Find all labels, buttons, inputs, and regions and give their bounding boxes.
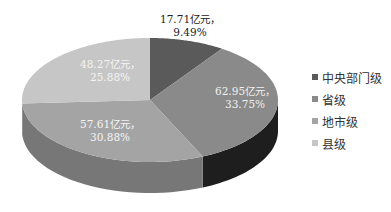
legend-swatch	[312, 74, 318, 80]
legend-swatch	[312, 140, 318, 146]
legend: 中央部门级 省级 地市级 县级	[312, 66, 382, 154]
legend-label: 省级	[322, 91, 346, 108]
legend-label: 县级	[322, 135, 346, 152]
legend-item-central[interactable]: 中央部门级	[312, 66, 382, 88]
legend-swatch	[312, 118, 318, 124]
data-label-province: 62.95亿元， 33.75%	[215, 85, 275, 111]
legend-item-city[interactable]: 地市级	[312, 110, 382, 132]
data-label-city: 57.61亿元， 30.88%	[80, 118, 140, 144]
legend-label: 中央部门级	[322, 69, 382, 86]
legend-item-province[interactable]: 省级	[312, 88, 382, 110]
data-label-county: 48.27亿元， 25.88%	[80, 58, 140, 84]
legend-item-county[interactable]: 县级	[312, 132, 382, 154]
data-label-central: 17.71亿元， 9.49%	[160, 13, 220, 39]
legend-label: 地市级	[322, 113, 358, 130]
legend-swatch	[312, 96, 318, 102]
